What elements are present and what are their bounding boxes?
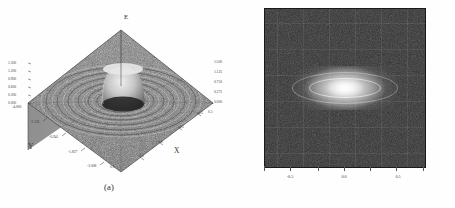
x-tick-label: -0.5: [197, 111, 203, 115]
heatmap-b: [264, 8, 426, 168]
y-axis-label: Y: [28, 142, 33, 151]
x-axis-label: X: [174, 146, 179, 155]
right-tick-label: 1.125: [214, 70, 222, 74]
y-tick-label: -3.008: [87, 164, 96, 168]
y-tick-label: -2.136: [30, 120, 39, 124]
z-axis-label: E: [124, 13, 128, 21]
y-tick-label: -0.941: [49, 135, 58, 139]
z-tick-label: 0.300: [8, 93, 16, 97]
heatmap-x-tick-label: -0.5: [287, 174, 294, 179]
right-tick-label: 0.750: [214, 80, 222, 84]
x-tick-label: 0.0: [158, 140, 163, 144]
z-tick-label: 1.200: [8, 69, 16, 73]
x-tick-label: -0.5: [138, 154, 144, 158]
z-tick-label: 0.600: [8, 85, 16, 89]
heatmap-x-tick-label: 0.5: [395, 174, 400, 179]
y-tick-label: -1.827: [68, 150, 77, 154]
central-peak: [102, 63, 144, 112]
figure-container: E Y X 1.500 1.200 0.900 0.600 0.300 0.00…: [0, 0, 455, 208]
heatmap-x-axis: [264, 166, 424, 172]
surface-plot-a: E Y X 1.500 1.200 0.900 0.600 0.300 0.00…: [0, 0, 228, 180]
x-tick-label: -0.5: [178, 125, 184, 129]
z-tick-label: 1.500: [8, 61, 16, 65]
right-tick-label: 1.500: [214, 60, 222, 64]
y-tick-label: -4.000: [12, 105, 21, 109]
panel-b: -0.5 0.0 0.5 (b): [228, 0, 455, 208]
heatmap-x-tick-label: 0.0: [341, 174, 346, 179]
z-tick-label: 0.900: [8, 77, 16, 81]
caption-a: (a): [104, 182, 114, 192]
right-tick-label: 0.375: [214, 90, 222, 94]
surface-plot-svg: [0, 0, 228, 180]
contour-ring-outer: [292, 72, 398, 104]
right-tick-label: 0.000: [214, 100, 222, 104]
panel-a: E Y X 1.500 1.200 0.900 0.600 0.300 0.00…: [0, 0, 228, 208]
x-corner-tick-label: 0.5: [208, 110, 213, 114]
z-axis-ticks: [28, 63, 31, 104]
x-tick-label: 0.5: [110, 165, 115, 169]
